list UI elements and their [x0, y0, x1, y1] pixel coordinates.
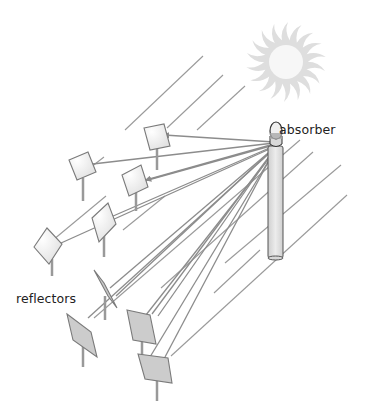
solar-tower-diagram: absorber reflectors: [0, 0, 366, 418]
reflector-4: [92, 203, 116, 257]
reflector-5: [34, 228, 62, 276]
reflectors-label: reflectors: [16, 291, 76, 306]
incoming-sun-rays: [53, 56, 347, 356]
reflector-2: [69, 152, 96, 201]
reflector-9: [138, 354, 172, 401]
sun-icon: [246, 22, 326, 102]
reflector-3: [122, 165, 148, 211]
absorber-label: absorber: [279, 122, 335, 137]
reflector-1: [144, 124, 170, 170]
diagram-canvas: [0, 0, 366, 418]
reflector-7: [67, 314, 97, 367]
reflector-8: [127, 310, 156, 356]
tower-icon: [268, 146, 283, 260]
